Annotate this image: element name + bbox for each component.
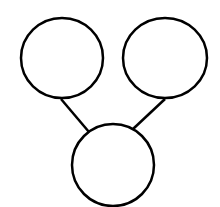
node-bottom [72, 124, 154, 206]
node-right [123, 18, 207, 98]
tree-diagram [0, 0, 220, 207]
edge-left-bottom [61, 99, 89, 132]
node-left [21, 18, 103, 98]
edge-right-bottom [133, 99, 165, 129]
